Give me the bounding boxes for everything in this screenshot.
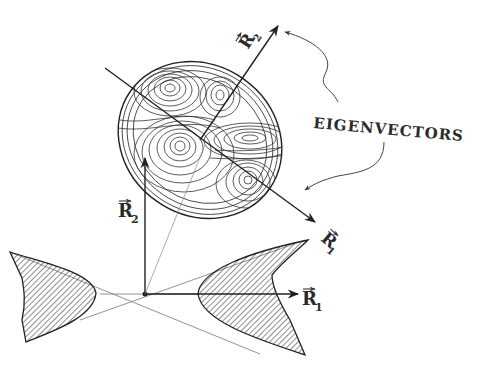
label-r2-eigen: R 2 — [234, 25, 264, 53]
label-r1-axis: R 1 — [302, 288, 323, 314]
label-r2-axis: R 2 — [118, 200, 139, 226]
eigenvectors-label: EIGENVECTORS — [313, 114, 465, 145]
annotation-arrow-top — [285, 32, 338, 102]
svg-text:2: 2 — [131, 213, 139, 226]
label-r1-eigen: R 1 — [316, 228, 345, 258]
annotation-arrows — [285, 32, 384, 190]
annotation-arrow-bottom — [305, 142, 384, 190]
hyperbola-left-shaded — [10, 252, 96, 342]
svg-text:EIGENVECTORS: EIGENVECTORS — [313, 114, 465, 145]
eigenvector-diagram: R 2 R 1 R 2 R 1 EIGENVECTORS — [0, 0, 504, 378]
hyperbola-right-shaded — [198, 240, 308, 355]
svg-text:1: 1 — [315, 301, 323, 314]
